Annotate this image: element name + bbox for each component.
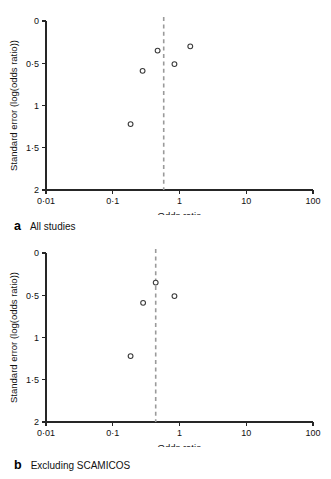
data-point-marker xyxy=(155,48,160,53)
data-point-marker xyxy=(172,294,177,299)
y-tick-label: 0·5 xyxy=(26,291,39,301)
x-tick-label: 1 xyxy=(177,428,182,438)
panel-a-caption: a All studies xyxy=(14,219,76,233)
y-tick-label: 2 xyxy=(34,417,39,427)
data-point-marker xyxy=(188,44,193,49)
y-tick-label: 0·5 xyxy=(26,59,39,69)
data-point-marker xyxy=(153,280,158,285)
panel-a-caption-letter: a xyxy=(14,219,21,233)
data-point-marker xyxy=(128,122,133,127)
x-tick-label: 0·1 xyxy=(106,196,119,206)
x-tick-label: 0·01 xyxy=(37,428,55,438)
panel-b-caption-letter: b xyxy=(14,458,22,472)
y-axis-title: Standard error (log(odds ratio)) xyxy=(8,272,19,403)
data-point-marker xyxy=(141,300,146,305)
funnel-plot-panel-b: 00·511·520·010·1110100Odds ratioStandard… xyxy=(0,232,331,479)
funnel-plot-a-canvas: 00·511·520·010·1110100Odds ratioStandard… xyxy=(0,0,331,215)
y-axis-title: Standard error (log(odds ratio)) xyxy=(8,40,19,171)
data-point-marker xyxy=(172,62,177,67)
y-tick-label: 1·5 xyxy=(26,375,39,385)
x-axis-title: Odds ratio xyxy=(158,442,202,447)
y-tick-label: 1·5 xyxy=(26,143,39,153)
data-point-marker xyxy=(140,68,145,73)
y-tick-label: 1 xyxy=(34,101,39,111)
funnel-plot-b-canvas: 00·511·520·010·1110100Odds ratioStandard… xyxy=(0,232,331,447)
x-tick-label: 0·1 xyxy=(106,428,119,438)
x-tick-label: 10 xyxy=(241,428,251,438)
panel-a-caption-text: All studies xyxy=(30,221,76,232)
y-tick-label: 0 xyxy=(34,248,39,258)
x-tick-label: 1 xyxy=(177,196,182,206)
panel-b-caption: b Excluding SCAMICOS xyxy=(14,458,130,472)
y-tick-label: 1 xyxy=(34,333,39,343)
x-axis-title: Odds ratio xyxy=(158,210,202,215)
funnel-plot-panel-a: 00·511·520·010·1110100Odds ratioStandard… xyxy=(0,0,331,240)
y-tick-label: 2 xyxy=(34,185,39,195)
y-tick-label: 0 xyxy=(34,16,39,26)
x-tick-label: 10 xyxy=(241,196,251,206)
data-point-marker xyxy=(128,354,133,359)
x-tick-label: 100 xyxy=(305,428,320,438)
panel-b-caption-text: Excluding SCAMICOS xyxy=(31,460,130,471)
x-tick-label: 100 xyxy=(305,196,320,206)
x-tick-label: 0·01 xyxy=(37,196,55,206)
